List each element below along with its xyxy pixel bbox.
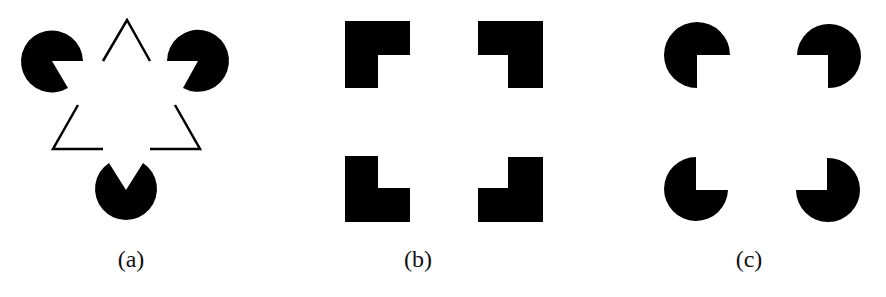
panel-c-label: (c) xyxy=(736,246,763,273)
panel-b-l-shapes xyxy=(345,21,543,222)
l-block-bottom-right xyxy=(478,157,543,222)
illusory-contours-figure: (a) (b) (c) xyxy=(0,0,886,297)
disc-top-left xyxy=(664,22,730,88)
l-block-bottom-left xyxy=(345,156,410,222)
pacman-top-left xyxy=(21,30,83,92)
pacman-bottom xyxy=(95,163,157,220)
l-block-top-right xyxy=(478,21,543,88)
triangle-left-corner-lines xyxy=(53,105,103,149)
pacman-top-right xyxy=(167,30,229,92)
panel-b-label: (b) xyxy=(404,246,432,273)
panel-c-kanizsa-square xyxy=(664,22,861,222)
disc-top-right xyxy=(797,24,861,88)
triangle-right-corner-lines xyxy=(150,105,200,149)
l-block-top-left xyxy=(345,21,410,88)
panel-a-kanizsa-triangle xyxy=(21,20,229,220)
triangle-apex-lines xyxy=(103,20,150,61)
disc-bottom-left xyxy=(664,157,728,221)
panel-a-label: (a) xyxy=(118,246,145,273)
disc-bottom-right xyxy=(796,158,860,222)
